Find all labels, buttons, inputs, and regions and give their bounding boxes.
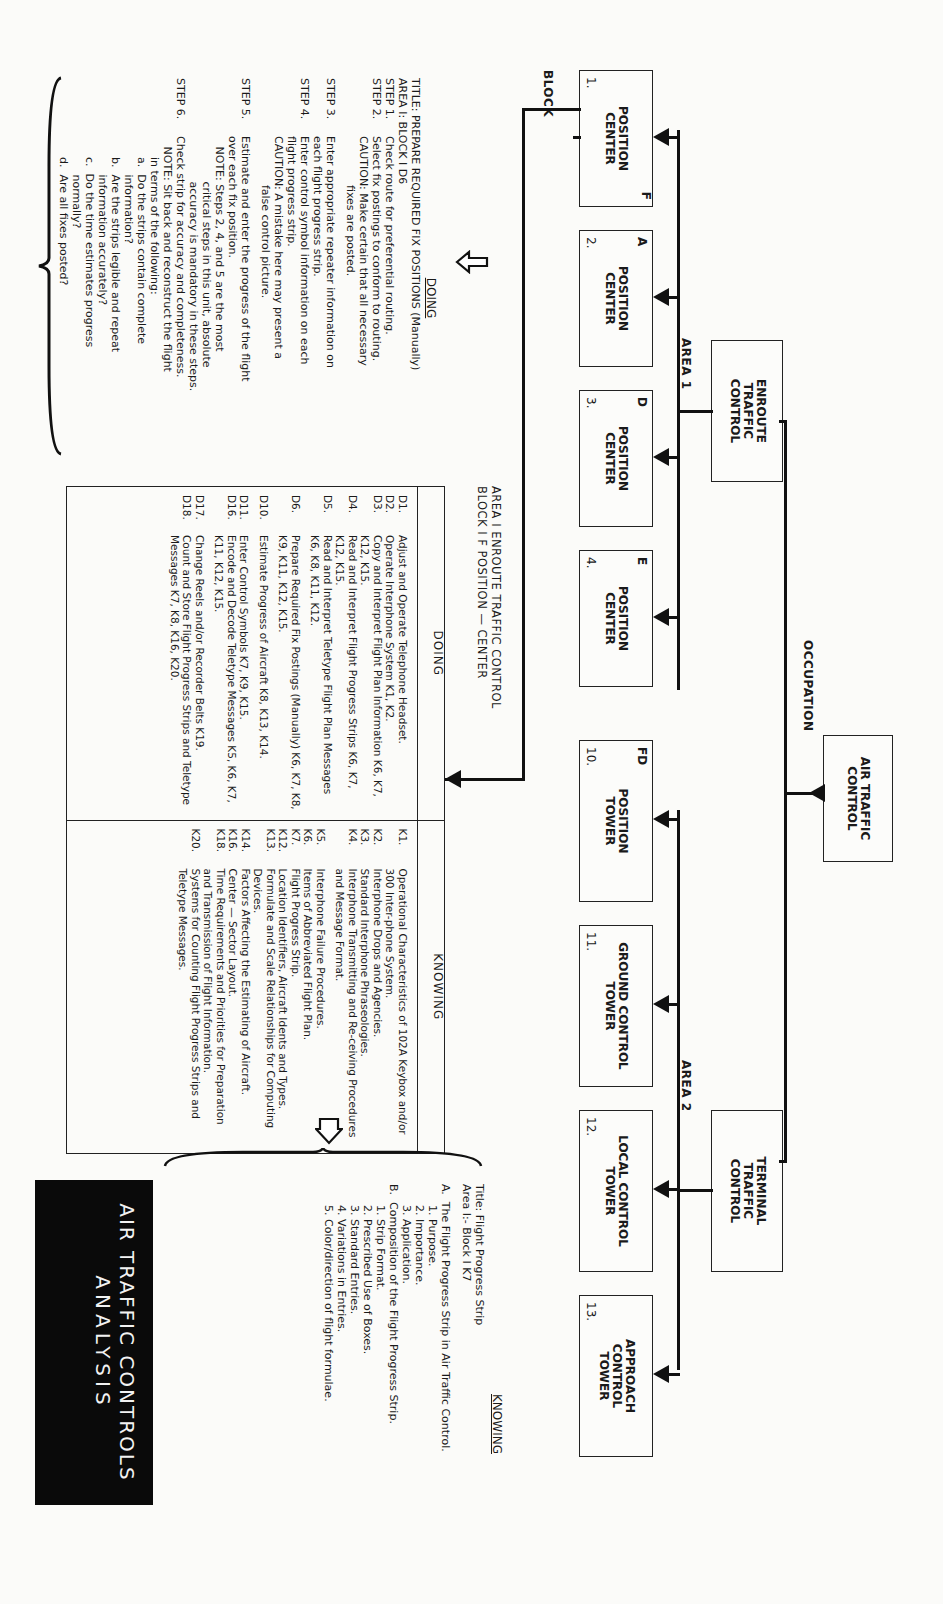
doing-item: D2.Operate Interphone System K1, K2.	[384, 487, 397, 820]
area-2-box: TERMINAL TRAFFIC CONTROL	[711, 1110, 783, 1272]
arrow-icon	[653, 128, 669, 146]
step-text: a. Do the strips contain complete	[135, 136, 148, 344]
connector	[523, 108, 581, 111]
block-number: 13.	[584, 1302, 597, 1321]
step-row: critical steps in this unit, absolute	[200, 78, 213, 428]
arrow-icon	[653, 448, 669, 466]
step-row	[252, 78, 259, 428]
step-text: NOTE: Steps 2, 4, and 5 are the most	[213, 136, 226, 352]
block-box: F POSITIONCENTER 1.	[579, 70, 653, 207]
step-row: fixes are posted.	[344, 78, 357, 428]
step-key	[200, 78, 213, 136]
block-number: 4.	[584, 557, 597, 568]
knowing-line: 4. Variations in Entries.	[335, 1184, 348, 1544]
area-1-label: AREA 1	[679, 338, 693, 390]
step-key	[109, 78, 122, 136]
knowing-item: K14.Factors Affecting the Estimating of …	[240, 821, 253, 1154]
step-text: Check strip for accuracy and completenes…	[174, 136, 187, 377]
step-text: accuracy is mandatory in these steps.	[187, 136, 200, 391]
doing-cell: D1.Adjust and Operate Telephone Headset.…	[67, 487, 418, 821]
step-text: information accurately?	[96, 136, 109, 305]
step-row: NOTE: Sit back and reconstruct the fligh…	[161, 78, 174, 428]
rotated-page: OCCUPATION AIR TRAFFIC CONTROL AREA 1 EN…	[0, 0, 943, 1604]
knowing-detail-block: KNOWING Title: Flight Progress Strip Are…	[322, 1184, 503, 1544]
block-line: GROUND CONTROL	[616, 926, 629, 1086]
arrow-icon	[653, 608, 669, 626]
step-row: in terms of the following:	[148, 78, 161, 428]
area-1-box: ENROUTE TRAFFIC CONTROL	[711, 340, 783, 482]
block-number: 12.	[584, 1117, 597, 1136]
knowing-line: 3. Standard Entries.	[348, 1184, 361, 1544]
knowing-item: K1.Operational Characteristics of 102A K…	[384, 821, 409, 1154]
arrow-icon	[653, 1365, 669, 1383]
knowing-item: K2.Interphone Drops and Agencies.	[372, 821, 385, 1154]
step-row: STEP 6.Check strip for accuracy and comp…	[174, 78, 187, 428]
step-key	[285, 78, 298, 136]
block-number: 10.	[584, 747, 597, 766]
knowing-item: K16.Center — Sector Layout.	[227, 821, 240, 1154]
knowing-heading: KNOWING	[490, 1394, 503, 1544]
step-row: flight progress strip.	[285, 78, 298, 428]
step-key	[226, 78, 239, 136]
block-line: APPROACH	[623, 1296, 636, 1456]
connector	[678, 410, 713, 413]
step-row: information?	[122, 78, 135, 428]
step-text: Select fix postings to conform to routin…	[370, 136, 383, 361]
step-text: critical steps in this unit, absolute	[200, 136, 213, 368]
doing-item: D11.Enter Control Symbols K7, K9, K15.	[238, 487, 251, 820]
knowing-item: K18.Time Requirements and Priorities for…	[202, 821, 227, 1154]
block-number: 1.	[584, 77, 597, 88]
step-key: STEP 5.	[239, 78, 252, 136]
connector	[573, 136, 581, 139]
knowing-line: 2. Prescribed Use of Boxes.	[361, 1184, 374, 1544]
doing-item: D3.Copy and Interpret Flight Plan Inform…	[359, 487, 384, 820]
block-number: 3.	[584, 397, 597, 408]
step-key	[187, 78, 200, 136]
block-line: TOWER	[603, 741, 616, 901]
step-key	[148, 78, 161, 136]
knowing-line: 5. Color/direction of flight formulae.	[322, 1184, 335, 1544]
doing-item: D1.Adjust and Operate Telephone Headset.	[397, 487, 410, 820]
root-box: AIR TRAFFIC CONTROL	[823, 735, 893, 862]
block-number: 11.	[584, 932, 597, 951]
step-key	[272, 78, 285, 136]
step-row: a. Do the strips contain complete	[135, 78, 148, 428]
block-box: D POSITIONCENTER 3.	[579, 390, 653, 527]
connector	[779, 1160, 787, 1163]
step-row: CAUTION: Make certain that all necessary	[357, 78, 370, 428]
doing-title-line: TITLE: PREPARE REQUIRED FIX POSITIONS (M…	[409, 78, 422, 428]
area-2-name: TERMINAL TRAFFIC CONTROL	[728, 1111, 767, 1271]
step-text: fixes are posted.	[344, 136, 357, 276]
step-text: c. Do the time estimates progress	[83, 136, 96, 347]
step-row: information accurately?	[96, 78, 109, 428]
step-key: STEP 3.	[324, 78, 337, 136]
knowing-item: K20.Systems for Counting Flight Progress…	[177, 821, 202, 1154]
step-row: over each fix position.	[226, 78, 239, 428]
step-key: STEP 6.	[174, 78, 187, 136]
caption-line: AREA I ENROUTE TRAFFIC CONTROL	[489, 486, 503, 709]
connector	[677, 810, 680, 1370]
step-row: c. Do the time estimates progress	[83, 78, 96, 428]
knowing-line: 1. Purpose.	[426, 1184, 439, 1544]
title-line-1: AIR TRAFFIC CONTROLS	[115, 1180, 139, 1505]
title-line-2: ANALYSIS	[91, 1180, 115, 1505]
step-text: over each fix position.	[226, 136, 239, 258]
title-block: AIR TRAFFIC CONTROLS ANALYSIS	[35, 1180, 153, 1505]
step-row: CAUTION: A mistake here may present a	[272, 78, 285, 428]
knowing-title-line: Title: Flight Progress Strip	[473, 1184, 486, 1544]
step-key	[337, 78, 344, 136]
block-box: FD POSITIONTOWER 10.	[579, 740, 653, 902]
step-key	[259, 78, 272, 136]
doing-item: D10.Estimate Progress of Aircraft K8, K1…	[258, 487, 271, 820]
area-1-name: ENROUTE TRAFFIC CONTROL	[728, 341, 767, 481]
root-label: AIR TRAFFIC CONTROL	[845, 736, 871, 861]
connector	[678, 1189, 713, 1192]
connector	[779, 420, 787, 423]
knowing-line: 2. Importance.	[413, 1184, 426, 1544]
step-key	[161, 78, 174, 136]
knowing-item: K7.Flight Progress Strip.	[290, 821, 303, 1154]
step-row: STEP 5.Estimate and enter the progress o…	[239, 78, 252, 428]
arrow-icon	[653, 288, 669, 306]
step-row: STEP 4.Enter control symbol information …	[298, 78, 311, 428]
block-letter: F	[639, 192, 652, 200]
